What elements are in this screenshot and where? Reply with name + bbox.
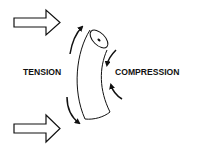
tension-arrows-icon	[67, 27, 82, 123]
force-arrow-bottom-icon	[14, 115, 60, 142]
compression-label: COMPRESSION	[115, 67, 179, 77]
bent-cylinder-icon	[77, 27, 111, 119]
tension-label: TENSION	[23, 67, 61, 77]
force-arrow-top-icon	[14, 10, 60, 35]
